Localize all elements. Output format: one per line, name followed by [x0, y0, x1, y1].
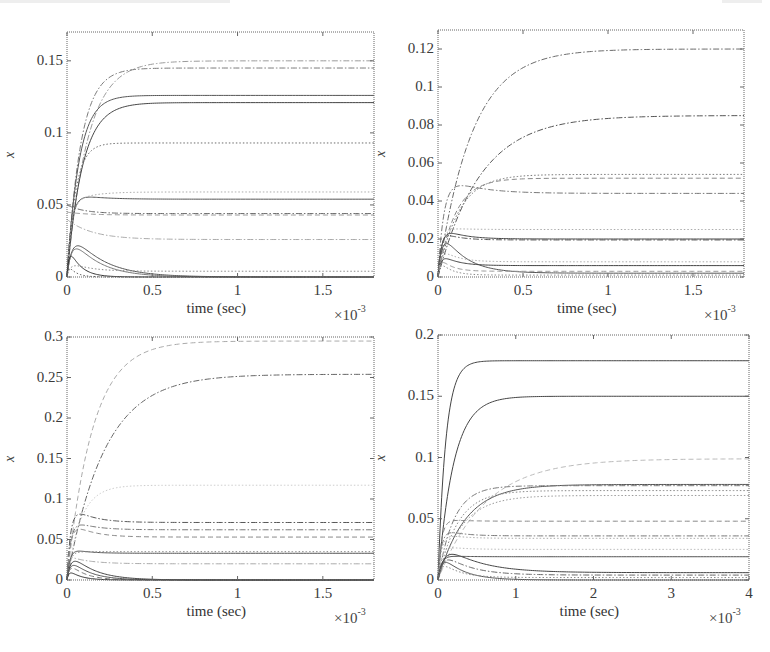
series-line-s13	[67, 256, 374, 277]
series-line-s7	[67, 192, 374, 277]
plot-area	[67, 337, 374, 580]
y-tick-label: 0.1	[386, 79, 434, 94]
x-tick-label: 1	[218, 586, 258, 601]
multiplier-base: ×10	[334, 307, 357, 323]
data-series-group	[67, 61, 374, 277]
series-line-s1	[438, 361, 749, 580]
plot-area	[438, 30, 744, 277]
series-line-s1	[438, 49, 744, 277]
y-tick-label: 0.06	[386, 155, 434, 170]
series-line-s11	[67, 565, 374, 580]
series-line-s3	[67, 485, 374, 580]
series-line-s2	[438, 396, 749, 580]
series-line-s1	[67, 61, 374, 277]
multiplier-exponent: -3	[732, 606, 740, 617]
x-tick-label: 1	[218, 283, 258, 298]
x-axis-multiplier: ×10-3	[334, 305, 366, 324]
x-axis-label: time (sec)	[560, 603, 620, 620]
subplot-bottom-right: 00.050.10.150.201234time (sec)x×10-3	[438, 335, 749, 580]
series-line-s10	[438, 536, 749, 580]
subplot-top-right: 00.020.040.060.080.10.1200.511.5time (se…	[438, 30, 744, 277]
series-line-s5	[438, 486, 749, 580]
series-line-s9	[67, 556, 374, 564]
multiplier-base: ×10	[704, 307, 727, 323]
data-series-group	[438, 361, 749, 580]
multiplier-exponent: -3	[727, 303, 735, 314]
series-line-s10	[67, 219, 374, 239]
x-tick-label: 0	[418, 586, 458, 601]
series-line-s8	[67, 205, 374, 214]
x-axis-label: time (sec)	[187, 603, 247, 620]
series-line-s5	[67, 143, 374, 277]
series-line-s3	[438, 459, 749, 580]
plot-area	[67, 32, 374, 277]
x-axis-multiplier: ×10-3	[709, 608, 741, 627]
multiplier-exponent: -3	[357, 606, 365, 617]
y-tick-label: 0	[15, 269, 63, 284]
y-tick-label: 0.25	[15, 370, 63, 385]
series-line-s6	[438, 229, 744, 277]
x-axis-label: time (sec)	[187, 300, 247, 317]
series-line-s3	[67, 95, 374, 277]
x-tick-label: 3	[651, 586, 691, 601]
series-line-s11	[67, 246, 374, 277]
y-tick-label: 0.05	[15, 197, 63, 212]
series-line-s5	[438, 186, 744, 277]
data-series-group	[438, 49, 744, 277]
multiplier-base: ×10	[334, 610, 357, 626]
y-axis-label: x	[2, 151, 18, 157]
series-line-s2	[438, 116, 744, 277]
x-axis-multiplier: ×10-3	[704, 305, 736, 324]
y-tick-label: 0.15	[386, 388, 434, 403]
series-line-s1	[67, 341, 374, 580]
y-tick-label: 0.08	[386, 117, 434, 132]
axes-box	[67, 32, 374, 277]
y-tick-label: 0	[386, 269, 434, 284]
y-axis-label: x	[373, 454, 389, 460]
y-tick-label: 0.02	[386, 231, 434, 246]
header-text-fragment	[0, 0, 230, 3]
plot-area	[438, 335, 749, 580]
y-axis-label: x	[373, 150, 389, 156]
y-tick-label: 0.3	[15, 329, 63, 344]
y-axis-label: x	[2, 455, 18, 461]
subplot-top-left: 00.050.10.1500.511.5time (sec)x×10-3	[67, 32, 374, 277]
x-axis-label: time (sec)	[557, 300, 617, 317]
series-line-s12	[67, 249, 374, 277]
y-tick-label: 0.05	[386, 511, 434, 526]
x-tick-label: 0	[418, 283, 458, 298]
multiplier-base: ×10	[709, 610, 732, 626]
x-tick-label: 1	[496, 586, 536, 601]
x-tick-label: 1.5	[673, 283, 713, 298]
y-tick-label: 0.15	[15, 451, 63, 466]
x-tick-label: 0.5	[132, 586, 172, 601]
series-line-s4	[438, 484, 749, 580]
x-tick-label: 1.5	[303, 283, 343, 298]
series-line-s9	[438, 244, 744, 277]
y-tick-label: 0.1	[15, 491, 63, 506]
multiplier-exponent: -3	[357, 303, 365, 314]
y-tick-label: 0	[15, 572, 63, 587]
x-tick-label: 0.5	[132, 283, 172, 298]
x-tick-label: 0	[47, 586, 87, 601]
y-tick-label: 0.15	[15, 53, 63, 68]
y-tick-label: 0.2	[15, 410, 63, 425]
series-line-s2	[67, 374, 374, 580]
x-tick-label: 1.5	[303, 586, 343, 601]
x-axis-multiplier: ×10-3	[334, 608, 366, 627]
y-tick-label: 0.04	[386, 193, 434, 208]
axes-box	[67, 337, 374, 580]
header-page-fragment	[722, 0, 762, 3]
x-tick-label: 4	[729, 586, 769, 601]
x-tick-label: 1	[588, 283, 628, 298]
series-line-s4	[67, 103, 374, 277]
y-tick-label: 0	[386, 572, 434, 587]
y-tick-label: 0.1	[15, 125, 63, 140]
data-series-group	[67, 341, 374, 580]
page-header-clipped	[0, 0, 770, 6]
y-tick-label: 0.12	[386, 41, 434, 56]
y-tick-label: 0.05	[15, 532, 63, 547]
x-tick-label: 0	[47, 283, 87, 298]
axes-box	[438, 335, 749, 580]
y-tick-label: 0.1	[386, 450, 434, 465]
